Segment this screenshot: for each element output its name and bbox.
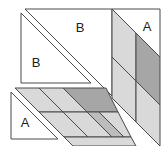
- triangle-a-top-right-label: A: [143, 19, 152, 34]
- shear-diagram-figure: BBAA: [0, 0, 163, 146]
- diagram-svg: BBAA: [0, 0, 163, 146]
- grid-cell-row3: [64, 137, 136, 146]
- triangle-a-bottom-left-label: A: [21, 115, 30, 130]
- triangle-b-lower-label: B: [32, 55, 41, 70]
- triangle-b-upper-label: B: [76, 20, 85, 35]
